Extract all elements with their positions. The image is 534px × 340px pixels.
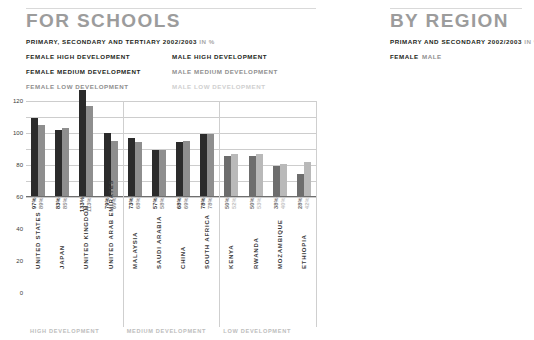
left-subtitle-unit: IN %: [199, 38, 215, 45]
y-axis-tick-label: 100: [13, 130, 23, 136]
y-axis-tick-label: 40: [16, 226, 23, 232]
category-label: SOUTH AFRICA: [204, 197, 210, 269]
panel-top-divider-right: [390, 8, 522, 9]
for-schools-plot: 020406080100120 97%89%83%85%133%113%79%6…: [26, 101, 316, 197]
y-axis-tick-label: 60: [16, 194, 23, 200]
bar-male: [231, 154, 238, 196]
y-axis-tick-label: 80: [16, 162, 23, 168]
category-label: KENYA: [228, 197, 234, 269]
bar-male: [304, 162, 311, 196]
left-subtitle: PRIMARY, SECONDARY AND TERTIARY 2002/200…: [26, 38, 215, 45]
category-label: CHINA: [180, 197, 186, 269]
category-label-cell: UNITED ARAB EMIRATES: [99, 197, 123, 269]
bar-female: [128, 138, 135, 196]
bar-female: [200, 134, 207, 196]
category-label-cell: RWANDA: [244, 197, 268, 269]
bar-group: [50, 101, 74, 196]
bar-group: [171, 101, 195, 196]
legend-female: FEMALE: [390, 53, 419, 60]
y-axis-tick-label: 20: [16, 258, 23, 264]
bar-male: [135, 142, 142, 196]
bar-group: [147, 101, 171, 196]
bar-group: [244, 101, 268, 196]
category-label: MOZAMBIQUE: [277, 197, 283, 269]
bar-male: [256, 154, 263, 196]
bars-left: [26, 101, 316, 196]
legend-male-low: MALE LOW DEVELOPMENT: [172, 83, 266, 90]
right-subtitle: PRIMARY AND SECONDARY 2002/2003 IN %: [390, 38, 534, 45]
category-label-cell: SAUDI ARABIA: [147, 197, 171, 269]
panel-top-divider: [26, 8, 316, 9]
y-axis-tick-label: 0: [20, 290, 23, 296]
category-label-cell: MALAYSIA: [123, 197, 147, 269]
category-label: UNITED ARAB EMIRATES: [108, 197, 114, 269]
category-label-cell: MOZAMBIQUE: [268, 197, 292, 269]
bar-male: [159, 150, 166, 196]
right-subtitle-unit: IN %: [524, 38, 534, 45]
development-group-separator: [219, 101, 220, 327]
y-axis-tick-label: 120: [13, 98, 23, 104]
bar-group: [268, 101, 292, 196]
bar-group: [219, 101, 243, 196]
for-schools-panel: FOR SCHOOLS PRIMARY, SECONDARY AND TERTI…: [0, 0, 360, 340]
category-label: UNITED STATES: [35, 197, 41, 269]
legend-female-medium: FEMALE MEDIUM DEVELOPMENT: [26, 68, 141, 75]
category-label: UNITED KINGDOM: [83, 197, 89, 269]
development-group-separator-end: [316, 101, 317, 327]
page-title-for-schools: FOR SCHOOLS: [26, 11, 181, 30]
development-group-label: LOW DEVELOPMENT: [223, 328, 291, 334]
category-label-cell: UNITED KINGDOM: [74, 197, 98, 269]
bar-male: [280, 164, 287, 196]
bar-group: [123, 101, 147, 196]
legend-male: MALE: [422, 53, 442, 60]
bar-male: [38, 125, 45, 196]
legend-male-high: MALE HIGH DEVELOPMENT: [172, 53, 267, 60]
bar-female: [297, 174, 304, 196]
bar-group: [74, 101, 98, 196]
bar-female: [55, 130, 62, 196]
bar-female: [31, 118, 38, 196]
bar-female: [273, 166, 280, 196]
development-group-separator: [123, 101, 124, 327]
category-label-cell: CHINA: [171, 197, 195, 269]
bar-female: [152, 150, 159, 196]
bar-male: [183, 141, 190, 196]
category-label-cell: KENYA: [219, 197, 243, 269]
bar-male: [62, 128, 69, 196]
page-title-by-region: BY REGION: [390, 11, 509, 30]
by-region-panel: BY REGION PRIMARY AND SECONDARY 2002/200…: [360, 0, 534, 340]
category-label: JAPAN: [59, 197, 65, 269]
bar-male: [86, 106, 93, 196]
bar-group: [195, 101, 219, 196]
legend-female-low: FEMALE LOW DEVELOPMENT: [26, 83, 129, 90]
category-label-cell: UNITED STATES: [26, 197, 50, 269]
category-labels-left: UNITED STATESJAPANUNITED KINGDOMUNITED A…: [26, 197, 316, 269]
category-label-cell: ETHIOPIA: [292, 197, 316, 269]
legend-female-high: FEMALE HIGH DEVELOPMENT: [26, 53, 130, 60]
bar-female: [176, 142, 183, 196]
bar-female: [249, 156, 256, 196]
bar-female: [224, 156, 231, 196]
category-label-cell: SOUTH AFRICA: [195, 197, 219, 269]
development-group-label: MEDIUM DEVELOPMENT: [127, 328, 206, 334]
category-label: RWANDA: [253, 197, 259, 269]
bar-female: [79, 90, 86, 196]
development-group-label: HIGH DEVELOPMENT: [30, 328, 99, 334]
legend-male-medium: MALE MEDIUM DEVELOPMENT: [172, 68, 278, 75]
bar-male: [207, 134, 214, 196]
category-label-cell: JAPAN: [50, 197, 74, 269]
category-label: ETHIOPIA: [301, 197, 307, 269]
right-subtitle-text: PRIMARY AND SECONDARY 2002/2003: [390, 38, 522, 45]
category-label: SAUDI ARABIA: [156, 197, 162, 269]
category-label: MALAYSIA: [132, 197, 138, 269]
bar-group: [26, 101, 50, 196]
bar-group: [292, 101, 316, 196]
left-subtitle-text: PRIMARY, SECONDARY AND TERTIARY 2002/200…: [26, 38, 197, 45]
